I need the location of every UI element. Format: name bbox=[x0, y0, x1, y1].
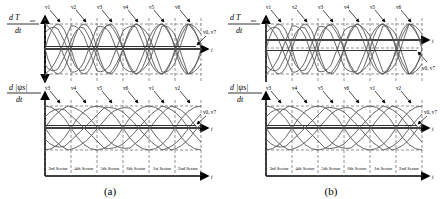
panel-a: v1 v2 v3 v4 v5 v6 v0, v7 t d T em dt bbox=[0, 0, 220, 199]
sector-label: 6th Sector bbox=[127, 166, 146, 171]
plot-b-torque: v1 v2 v3 v4 v5 v6 v0, v7 t d T em dt bbox=[228, 4, 435, 82]
zero-vector-label: v0, v7 bbox=[203, 29, 216, 35]
sector-label: 4th Sector bbox=[75, 166, 94, 171]
panel-b-caption: (b) bbox=[221, 185, 441, 197]
x-axis-label: t bbox=[211, 47, 213, 53]
y-axis-subscript: em bbox=[251, 18, 257, 23]
vector-label: v3 bbox=[318, 4, 324, 10]
x-axis-sector-label: t bbox=[432, 174, 434, 180]
vector-label: v4 bbox=[123, 4, 129, 10]
sector-label: 1st Sector bbox=[374, 166, 393, 171]
vector-label: v5 bbox=[370, 4, 376, 10]
x-axis-label: t bbox=[432, 38, 434, 44]
x-axis-label: t bbox=[432, 126, 434, 132]
vector-label: v6 bbox=[344, 85, 350, 91]
sector-label: 2nd Sector bbox=[178, 166, 198, 171]
y-axis-label-flux-b: d |ψs| dt bbox=[228, 83, 262, 104]
y-axis-subscript: em bbox=[30, 18, 36, 23]
vector-label: v1 bbox=[45, 4, 51, 10]
sector-label: 4th Sector bbox=[296, 166, 315, 171]
y-axis-denominator: dt bbox=[16, 95, 23, 104]
y-axis-numerator: d T bbox=[9, 13, 20, 22]
vector-label: v1 bbox=[149, 85, 155, 91]
sector-label: 2nd Sector bbox=[399, 166, 419, 171]
sector-label: 5th Sector bbox=[322, 166, 341, 171]
gridlines-flux-b bbox=[266, 100, 422, 176]
x-axis-sector-label: t bbox=[211, 174, 213, 180]
vector-label: v3 bbox=[45, 85, 51, 91]
zero-vector-label: v0, v7 bbox=[203, 109, 216, 115]
x-axis-label: t bbox=[211, 126, 213, 132]
sector-label: 3rd Sector bbox=[48, 166, 67, 171]
sector-label: 6th Sector bbox=[348, 166, 367, 171]
y-axis-denominator: dt bbox=[236, 26, 243, 35]
sector-label: 5th Sector bbox=[101, 166, 120, 171]
vector-label: v2 bbox=[292, 4, 298, 10]
figure-root: v1 v2 v3 v4 v5 v6 v0, v7 t d T em dt bbox=[0, 0, 441, 199]
panel-a-canvas: v1 v2 v3 v4 v5 v6 v0, v7 t d T em dt bbox=[0, 0, 220, 199]
vector-label: v2 bbox=[71, 4, 77, 10]
vector-label: v1 bbox=[266, 4, 272, 10]
y-axis-label-flux-a: d |ψs| dt bbox=[7, 83, 41, 104]
zero-vector-label: v0, v7 bbox=[422, 65, 435, 71]
vector-label: v1 bbox=[370, 85, 376, 91]
vector-label: v5 bbox=[318, 85, 324, 91]
vector-labels-torque-b: v1 v2 v3 v4 v5 v6 v0, v7 bbox=[266, 4, 435, 71]
panel-a-caption: (a) bbox=[0, 185, 220, 197]
plot-a-torque: v1 v2 v3 v4 v5 v6 v0, v7 t d T em dt bbox=[7, 4, 216, 82]
vector-label: v5 bbox=[149, 4, 155, 10]
vector-label: v2 bbox=[175, 85, 181, 91]
gridlines-flux-a bbox=[45, 100, 201, 176]
sector-label: 1st Sector bbox=[153, 166, 172, 171]
plot-b-flux: v3 v4 v5 v6 v1 v2 v0, v7 t t d |ψs| dt 3… bbox=[228, 83, 437, 180]
y-axis-numerator: d |ψs| bbox=[9, 83, 27, 92]
panel-b-canvas: v1 v2 v3 v4 v5 v6 v0, v7 t d T em dt bbox=[221, 0, 441, 199]
y-axis-denominator: dt bbox=[15, 26, 22, 35]
vector-label: v4 bbox=[292, 85, 298, 91]
vector-label: v3 bbox=[97, 4, 103, 10]
sector-label: 3rd Sector bbox=[269, 166, 288, 171]
y-axis-label-torque-b: d T em dt bbox=[228, 13, 260, 35]
vector-label: v4 bbox=[344, 4, 350, 10]
y-axis-numerator: d |ψs| bbox=[230, 83, 248, 92]
vector-label: v3 bbox=[266, 85, 272, 91]
y-axis-denominator: dt bbox=[237, 95, 244, 104]
y-axis-numerator: d T bbox=[230, 13, 241, 22]
vector-label: v6 bbox=[123, 85, 129, 91]
waveforms-torque-b bbox=[266, 24, 422, 74]
vector-label: v6 bbox=[396, 4, 402, 10]
y-axis-label-torque-a: d T em dt bbox=[7, 13, 39, 35]
zero-vector-label: v0, v7 bbox=[424, 109, 437, 115]
plot-a-flux: v3 v4 v5 v6 v1 v2 v0, v7 t t d |ψs| dt bbox=[7, 83, 216, 180]
vector-label: v5 bbox=[97, 85, 103, 91]
vector-label: v6 bbox=[175, 4, 181, 10]
vector-label: v4 bbox=[71, 85, 77, 91]
vector-label: v2 bbox=[396, 85, 402, 91]
panel-b: v1 v2 v3 v4 v5 v6 v0, v7 t d T em dt bbox=[221, 0, 441, 199]
